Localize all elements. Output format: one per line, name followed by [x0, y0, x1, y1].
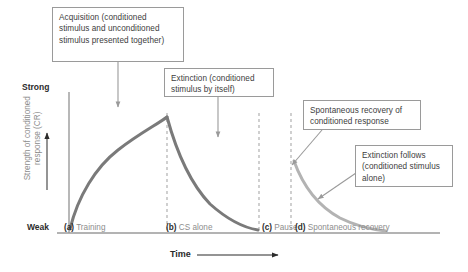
conditioning-diagram: Acquisition (conditioned stimulus and un…: [0, 0, 468, 272]
phase-name-d: Spontaneous recovery: [308, 223, 390, 232]
phase-tag-b: (b): [166, 223, 176, 232]
phase-label-c: (c) Pause: [262, 223, 298, 232]
y-axis-bottom-label: Weak: [27, 222, 49, 232]
phase-name-a: Training: [76, 223, 105, 232]
phase-tag-a: (a): [64, 223, 74, 232]
y-axis-label: Strength of conditioned response (CR): [23, 83, 44, 193]
callout-acquisition: Acquisition (conditioned stimulus and un…: [52, 7, 184, 62]
callout-extinction-follows: Extinction follows (conditioned stimulus…: [355, 145, 453, 187]
acquisition-curve: [70, 117, 167, 229]
extinction-follows-arrow: [318, 173, 356, 199]
phase-tag-c: (c): [262, 223, 272, 232]
recovery-arrow: [292, 130, 322, 165]
phase-label-a: (a) Training: [64, 223, 105, 232]
extinction-curve: [167, 117, 258, 230]
callout-extinction: Extinction (conditioned stimulus by itse…: [164, 68, 274, 97]
x-axis-label: Time: [170, 249, 191, 259]
phase-label-b: (b) CS alone: [166, 223, 212, 232]
phase-name-b: CS alone: [179, 223, 213, 232]
callout-spontaneous-recovery: Spontaneous recovery of conditioned resp…: [303, 100, 421, 130]
phase-label-d: (d) Spontaneous recovery: [295, 223, 390, 232]
phase-tag-d: (d): [295, 223, 305, 232]
